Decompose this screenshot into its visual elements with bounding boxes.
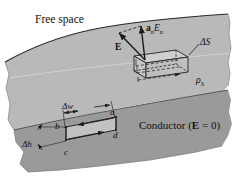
corner-label-c: c — [64, 148, 68, 157]
corner-label-b: b — [55, 122, 60, 131]
surface-charge-density-label: ρS — [196, 75, 204, 88]
delta-w-label: Δw — [62, 102, 73, 111]
delta-s-label: ΔS — [200, 38, 210, 48]
boundary-conditions-figure: Free space Conductor (E = 0) ρS ΔS anEn … — [0, 0, 237, 190]
free-space-label: Free space — [35, 14, 84, 26]
corner-label-d: d — [113, 131, 118, 140]
figure-canvas — [0, 0, 237, 190]
conductor-label-tail: = 0) — [199, 119, 220, 131]
delta-h-label: Δh — [22, 140, 32, 149]
conductor-label: Conductor (E = 0) — [139, 120, 220, 131]
en-subscript: n — [160, 28, 163, 35]
normal-field-vector-label: anEn — [146, 24, 163, 35]
conductor-label-text: Conductor ( — [139, 119, 192, 131]
corner-label-a: a — [110, 108, 115, 117]
electric-field-vector-label: E — [115, 43, 121, 53]
rho-subscript: S — [201, 80, 205, 88]
